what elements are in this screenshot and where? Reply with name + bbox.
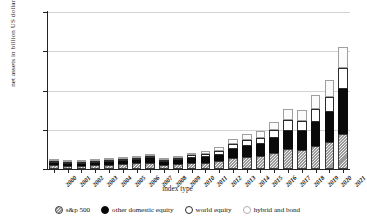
x-tick-mark-2002 [81,170,82,173]
bar-segment-other-domestic-equity-2014 [242,146,252,157]
x-tick-mark-2014 [247,170,248,173]
bar-segment-sp500-2005 [118,164,128,169]
y-axis-title: net assets in billion US dollars [9,0,17,117]
x-tick-mark-2013 [233,170,234,173]
bar-segment-sp500-2006 [132,163,142,169]
x-tick-mark-2011 [205,170,206,173]
x-tick-mark-2008 [164,170,165,173]
bar-segment-world-equity-2020 [325,97,335,113]
x-tick-mark-2017 [288,170,289,173]
x-tick-mark-2021 [343,170,344,173]
chart-legend: s&p 500other domestic equityworld equity… [0,202,355,218]
bar-segment-sp500-2014 [242,157,252,169]
x-tick-mark-2007 [150,170,151,173]
bar-2005 [118,157,128,169]
bar-segment-world-equity-2017 [283,120,293,131]
bar-series-layer [47,12,350,169]
bar-segment-world-equity-2021 [338,68,348,89]
bar-segment-sp500-2011 [201,163,211,169]
bar-2019 [311,95,321,169]
bar-segment-hybrid-and-bond-2019 [311,95,321,109]
hatched-circle-icon [55,206,63,214]
bar-segment-sp500-2013 [228,158,238,169]
bar-2007 [145,154,155,169]
bar-segment-sp500-2017 [283,149,293,169]
x-tick-mark-2001 [68,170,69,173]
bar-2006 [132,156,142,170]
legend-item-world-equity[interactable]: world equity [185,206,232,214]
bar-segment-sp500-2001 [63,166,73,169]
x-tick-mark-2010 [192,170,193,173]
bar-segment-sp500-2018 [297,150,307,169]
bar-segment-other-domestic-equity-2018 [297,131,307,150]
light-circle-icon [243,206,251,214]
bar-2004 [104,158,114,169]
bar-2002 [77,160,87,169]
bar-2017 [283,109,293,169]
bar-segment-hybrid-and-bond-2018 [297,110,307,121]
bar-segment-world-equity-2018 [297,121,307,132]
bar-segment-hybrid-and-bond-2016 [269,122,279,130]
bar-segment-other-domestic-equity-2017 [283,131,293,150]
bar-segment-sp500-2016 [269,153,279,169]
bar-2014 [242,134,252,169]
bar-segment-sp500-2007 [145,163,155,169]
legend-label-world-equity: world equity [196,206,232,214]
bar-2008 [159,158,169,169]
bar-segment-sp500-2012 [214,161,224,169]
bar-segment-world-equity-2019 [311,109,321,122]
bar-segment-sp500-2019 [311,146,321,169]
bar-segment-hybrid-and-bond-2020 [325,80,335,96]
bar-2012 [214,147,224,169]
legend-item-sp500[interactable]: s&p 500 [55,206,90,214]
bar-segment-other-domestic-equity-2021 [338,89,348,134]
bar-segment-sp500-2000 [49,165,59,169]
bar-2003 [90,159,100,169]
bar-segment-world-equity-2016 [269,130,279,138]
x-tick-mark-2016 [274,170,275,173]
bar-2001 [63,160,73,169]
open-circle-icon [185,206,193,214]
legend-item-other-domestic-equity[interactable]: other domestic equity [101,206,173,214]
x-tick-mark-2006 [137,170,138,173]
bar-segment-other-domestic-equity-2016 [269,138,279,153]
bar-segment-hybrid-and-bond-2021 [338,47,348,68]
bar-2009 [173,156,183,169]
bar-segment-sp500-2021 [338,134,348,169]
x-tick-mark-2015 [260,170,261,173]
legend-label-hybrid-and-bond: hybrid and bond [254,206,301,214]
bar-2018 [297,110,307,169]
x-axis-title: index type [0,184,355,193]
x-tick-mark-2020 [329,170,330,173]
x-tick-mark-2005 [123,170,124,173]
x-tick-mark-2000 [54,170,55,173]
bar-segment-sp500-2002 [77,166,87,169]
bar-segment-sp500-2010 [187,163,197,169]
bar-2016 [269,122,279,169]
bar-segment-sp500-2004 [104,165,114,169]
filled-circle-icon [101,206,109,214]
x-tick-mark-2018 [302,170,303,173]
bar-2015 [256,131,266,169]
x-tick-mark-2004 [109,170,110,173]
bar-segment-other-domestic-equity-2015 [256,144,266,156]
bar-2020 [325,80,335,169]
bar-segment-sp500-2020 [325,142,335,169]
bar-segment-hybrid-and-bond-2015 [256,131,266,138]
x-tick-mark-2012 [219,170,220,173]
bar-segment-other-domestic-equity-2020 [325,112,335,142]
bar-segment-sp500-2015 [256,156,266,169]
x-tick-mark-2009 [178,170,179,173]
bar-segment-sp500-2009 [173,164,183,169]
bar-segment-hybrid-and-bond-2017 [283,109,293,119]
bar-2013 [228,139,238,169]
bar-segment-sp500-2003 [90,165,100,169]
bar-2000 [49,159,59,169]
legend-item-hybrid-and-bond[interactable]: hybrid and bond [243,206,301,214]
bar-segment-other-domestic-equity-2019 [311,122,321,146]
bar-segment-sp500-2008 [159,165,169,169]
bar-2011 [201,151,211,169]
x-tick-mark-2019 [316,170,317,173]
bar-2010 [187,153,197,169]
